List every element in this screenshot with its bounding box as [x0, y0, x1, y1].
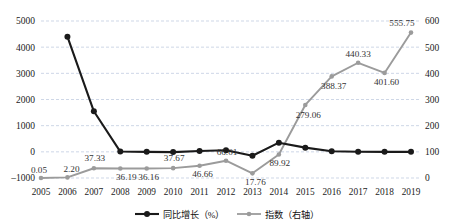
data-point	[250, 171, 255, 176]
data-label: 388.37	[321, 81, 347, 91]
data-point	[171, 166, 176, 171]
data-point	[144, 149, 150, 155]
x-axis-tick: 2009	[137, 187, 156, 197]
left-axis-tick: 2000	[16, 95, 35, 105]
data-point	[409, 30, 414, 35]
data-label: 555.75	[389, 18, 415, 28]
chart-legend: 同比增长（%）指数（右轴）	[0, 206, 453, 221]
data-point	[91, 108, 97, 114]
data-point	[303, 103, 308, 108]
left-axis-tick: 4000	[16, 43, 35, 53]
legend-label: 指数（右轴）	[265, 207, 319, 221]
right-axis-tick: 200	[425, 121, 440, 131]
data-point	[224, 158, 229, 163]
x-axis-tick: 2013	[243, 187, 262, 197]
right-axis-tick-labels: 0100200300400500600	[425, 16, 440, 183]
x-axis-tick: 2017	[349, 187, 368, 197]
data-point	[64, 34, 70, 40]
data-label: 17.76	[245, 177, 266, 187]
legend-marker-gray-line-icon	[236, 209, 262, 219]
x-axis-tick: 2010	[164, 187, 183, 197]
x-axis-tick: 2006	[58, 187, 77, 197]
x-axis-tick: 2011	[190, 187, 209, 197]
data-point	[65, 175, 70, 180]
data-point	[118, 166, 123, 171]
data-point	[276, 140, 282, 146]
data-label: 66.01	[217, 147, 238, 157]
left-axis-tick-labels: –1000010002000300040005000	[10, 16, 35, 183]
data-point	[249, 153, 255, 159]
legend-label: 同比增长（%）	[163, 207, 225, 221]
left-axis-tick: 5000	[16, 16, 35, 26]
left-axis-tick: 0	[30, 147, 35, 157]
x-axis-tick: 2016	[322, 187, 341, 197]
data-label: 37.67	[164, 153, 185, 163]
data-point	[356, 60, 361, 65]
data-point	[329, 148, 335, 154]
data-label: 37.33	[85, 153, 106, 163]
data-label: 46.66	[192, 169, 213, 179]
x-axis-tick: 2018	[375, 187, 394, 197]
chart-container: –1000010002000300040005000 0100200300400…	[0, 0, 453, 221]
data-label: 279.06	[296, 110, 322, 120]
data-label: 36.16	[138, 172, 159, 182]
data-label: 89.92	[270, 158, 291, 168]
right-axis-tick: 600	[425, 16, 440, 26]
legend-item[interactable]: 同比增长（%）	[134, 206, 225, 221]
data-point	[302, 145, 308, 151]
data-label: 0.05	[31, 165, 47, 175]
x-axis-tick-labels: 2005200620072008200920102011201220132014…	[32, 187, 421, 197]
data-point	[408, 149, 414, 155]
x-axis-tick: 2008	[111, 187, 130, 197]
right-axis-tick: 400	[425, 69, 440, 79]
right-axis-tick: 0	[425, 173, 430, 183]
data-label: 401.60	[374, 77, 400, 87]
data-point	[197, 148, 203, 154]
data-point	[117, 149, 123, 155]
x-axis-tick: 2014	[270, 187, 289, 197]
x-axis-tick: 2019	[402, 187, 421, 197]
left-axis-tick: 3000	[16, 69, 35, 79]
data-point	[382, 71, 387, 76]
right-axis-tick: 500	[425, 43, 440, 53]
right-axis-tick: 100	[425, 147, 440, 157]
data-point	[39, 176, 44, 181]
data-label: 36.19	[116, 172, 137, 182]
data-point	[382, 149, 388, 155]
data-label: 440.33	[346, 49, 372, 59]
x-axis-tick: 2015	[296, 187, 315, 197]
data-point	[92, 166, 97, 171]
left-axis-tick: 1000	[16, 121, 35, 131]
x-axis-tick: 2007	[85, 187, 104, 197]
data-point	[355, 149, 361, 155]
legend-marker-black-line-icon	[134, 209, 160, 219]
data-point	[197, 163, 202, 168]
data-point	[329, 74, 334, 79]
line-chart: –1000010002000300040005000 0100200300400…	[0, 0, 453, 206]
data-label: 2.20	[63, 164, 79, 174]
data-point	[277, 152, 282, 157]
right-axis-tick: 300	[425, 95, 440, 105]
data-point	[144, 166, 149, 171]
legend-item[interactable]: 指数（右轴）	[236, 206, 319, 221]
x-axis-tick: 2012	[217, 187, 236, 197]
x-axis-tick: 2005	[32, 187, 51, 197]
